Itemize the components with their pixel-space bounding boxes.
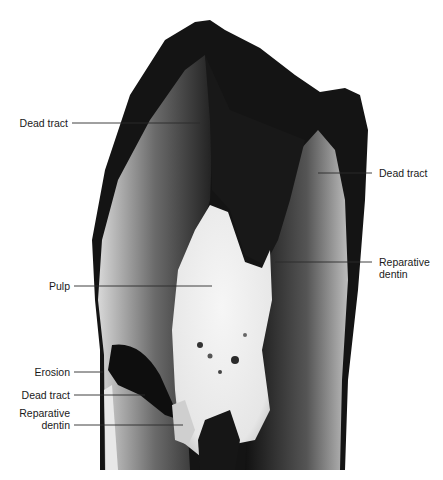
label-dead-tract-top: Dead tract [10, 117, 68, 129]
label-reparative-dentin-bottom-line2: dentin [10, 419, 70, 431]
label-dead-tract-bottom: Dead tract [10, 389, 70, 401]
label-dead-tract-right: Dead tract [379, 167, 427, 179]
label-pulp: Pulp [10, 280, 70, 292]
label-reparative-dentin-bottom-line1: Reparative [10, 407, 70, 419]
label-reparative-dentin-right-line1: Reparative [379, 256, 430, 268]
label-reparative-dentin-right-line2: dentin [379, 268, 408, 280]
label-erosion: Erosion [10, 366, 70, 378]
